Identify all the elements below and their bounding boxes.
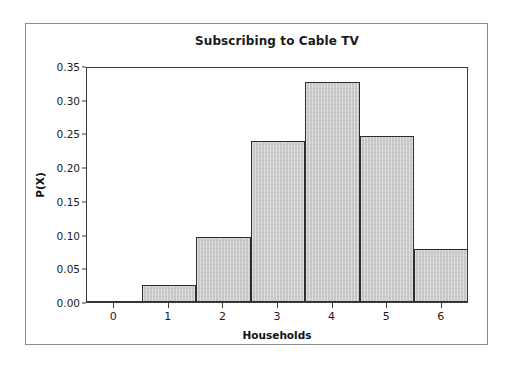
x-tick-label: 6 <box>437 310 444 323</box>
x-tick-mark <box>386 303 387 308</box>
y-tick-label: 0.20 <box>57 162 80 174</box>
y-tick-mark <box>82 100 86 101</box>
x-tick-label: 1 <box>164 310 171 323</box>
x-tick-label: 3 <box>274 310 281 323</box>
x-tick-mark <box>113 303 114 308</box>
y-tick-label: 0.15 <box>57 196 80 208</box>
y-tick-label: 0.05 <box>57 263 80 275</box>
bar-3 <box>251 141 306 302</box>
x-tick-label: 4 <box>328 310 335 323</box>
x-tick-mark <box>277 303 278 308</box>
bar-6 <box>414 249 467 302</box>
chart-title: Subscribing to Cable TV <box>86 34 468 48</box>
x-tick-label: 2 <box>219 310 226 323</box>
y-tick-mark <box>82 168 86 169</box>
y-axis-title-text: P(X) <box>34 172 46 197</box>
x-tick-mark <box>168 303 169 308</box>
x-axis-title: Households <box>86 329 468 341</box>
figure-canvas: Subscribing to Cable TV P(X) 0.000.050.1… <box>0 0 513 366</box>
plot-area <box>86 67 468 303</box>
bar-5 <box>360 136 415 302</box>
x-tick-mark <box>222 303 223 308</box>
x-tick-mark <box>332 303 333 308</box>
x-tick-label: 0 <box>110 310 117 323</box>
y-tick-label: 0.10 <box>57 230 80 242</box>
y-tick-mark <box>82 303 86 304</box>
y-tick-label: 0.00 <box>57 297 80 309</box>
y-tick-label: 0.35 <box>57 61 80 73</box>
y-tick-mark <box>82 67 86 68</box>
bar-4 <box>305 82 360 302</box>
bars-layer <box>87 68 467 302</box>
bar-1 <box>142 285 197 302</box>
y-tick-label: 0.25 <box>57 128 80 140</box>
x-tick-mark <box>441 303 442 308</box>
y-tick-mark <box>82 201 86 202</box>
y-axis-title: P(X) <box>32 150 48 220</box>
y-tick-label: 0.30 <box>57 95 80 107</box>
y-tick-mark <box>82 134 86 135</box>
bar-2 <box>196 237 251 302</box>
y-tick-mark <box>82 235 86 236</box>
x-tick-label: 5 <box>383 310 390 323</box>
bar-0 <box>87 301 142 303</box>
y-tick-mark <box>82 269 86 270</box>
